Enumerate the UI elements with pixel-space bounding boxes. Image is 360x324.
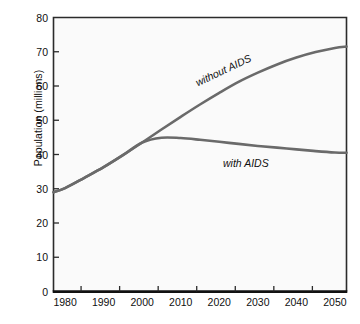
chart-plot-area	[0, 0, 360, 324]
x-tick-label: 1990	[92, 296, 115, 308]
x-tick-label: 1980	[53, 296, 76, 308]
x-tick-label: 2010	[169, 296, 192, 308]
x-tick-label: 2040	[285, 296, 308, 308]
x-tick-label: 2020	[208, 296, 231, 308]
x-tick-label: 2000	[130, 296, 153, 308]
x-axis-tick-labels: 19801990200020102020203020402050	[0, 296, 360, 312]
series-annotation-with-aids: with AIDS	[223, 157, 269, 169]
x-tick-label: 2050	[323, 296, 346, 308]
figure-container: Population (millions) 01020304050607080 …	[0, 0, 360, 324]
plot-background	[54, 18, 347, 292]
x-tick-label: 2030	[246, 296, 269, 308]
